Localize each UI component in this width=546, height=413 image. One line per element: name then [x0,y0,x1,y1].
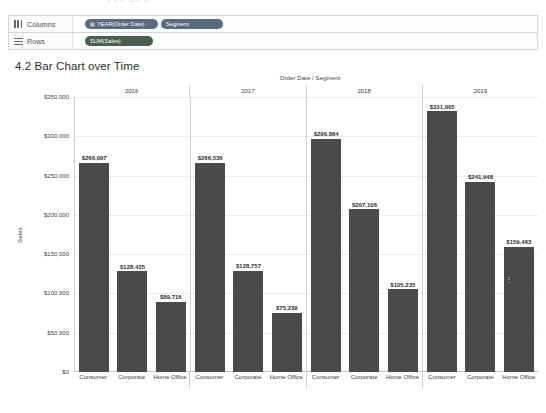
bar-groups: $266,097$128,435$89,716$266,536$128,757$… [75,97,538,372]
x-label-corporate: Corporate [229,372,267,388]
shelf-panel: Columns ▦ YEAR(Order Date) Segment Rows … [8,15,538,50]
x-label-consumer: Consumer [307,372,345,388]
pill-year-order-date[interactable]: ▦ YEAR(Order Date) [85,19,158,29]
columns-icon [14,20,23,28]
bar-value-label: $159,463 [506,239,531,245]
bar-slot: $207,106 [345,97,383,372]
bar-slot: $296,864 [307,97,345,372]
plot-wrapper: Sales $350,000$300,000$250,000$200,000$1… [8,97,538,372]
y-axis-ticks: $350,000$300,000$250,000$200,000$150,000… [22,97,72,372]
bar-value-label: $266,097 [82,155,107,161]
calendar-icon: ▦ [90,21,95,27]
bar-2016-corporate[interactable]: $128,435 [117,271,147,372]
page-title: 4.2 Bar Chart over Time [15,60,139,72]
top-artifact-strip: ppy gg g [0,0,546,14]
bar-slot: $266,097 [75,97,113,372]
bar-value-label: $128,435 [120,264,145,270]
pill-segment[interactable]: Segment [161,19,223,29]
scan-artifact: ⋮ [505,275,519,305]
x-label-corporate: Corporate [345,372,383,388]
bar-value-label: $266,536 [198,155,223,161]
chart-container: Order Date / Segment 2016201720182019 Sa… [8,75,538,395]
year-header-2018: 2018 [306,85,422,97]
columns-shelf-label: Columns [9,16,73,32]
x-label-consumer: Consumer [190,372,228,388]
rows-shelf-dropzone[interactable]: SUM(Sales) [73,33,537,49]
x-group-2016: ConsumerCorporateHome Office [74,372,189,388]
rows-icon [14,37,23,45]
bar-2017-consumer[interactable]: $266,536 [195,163,225,372]
bar-2016-consumer[interactable]: $266,097 [79,163,109,372]
x-label-home-office: Home Office [151,372,189,388]
x-group-2018: ConsumerCorporateHome Office [306,372,422,388]
columns-label-text: Columns [27,21,55,28]
pill-year-order-date-text: YEAR(Order Date) [97,21,144,27]
bar-slot: $159,463 [500,97,538,372]
bar-2019-corporate[interactable]: $241,948 [465,182,495,372]
x-axis-labels: ConsumerCorporateHome OfficeConsumerCorp… [74,372,538,388]
bar-group-2016: $266,097$128,435$89,716 [75,97,190,372]
bar-slot: $128,757 [229,97,267,372]
bar-group-2018: $296,864$207,106$105,235 [306,97,422,372]
y-tick-label: $350,000 [44,94,69,100]
y-tick-label: $0 [62,369,69,375]
x-label-home-office: Home Office [267,372,305,388]
bar-2019-consumer[interactable]: $331,905 [427,111,457,372]
pill-sum-sales[interactable]: SUM(Sales) [85,36,153,46]
bar-value-label: $241,948 [468,174,493,180]
y-tick-label: $150,000 [44,251,69,257]
bar-slot: $89,716 [152,97,190,372]
pill-sum-sales-text: SUM(Sales) [90,38,121,44]
x-group-2017: ConsumerCorporateHome Office [189,372,305,388]
y-tick-label: $250,000 [44,173,69,179]
bar-value-label: $105,235 [390,282,415,288]
bar-2018-corporate[interactable]: $207,106 [349,209,379,372]
bar-value-label: $75,239 [276,305,298,311]
x-label-corporate: Corporate [112,372,150,388]
rows-shelf-label: Rows [9,33,73,49]
bar-2018-consumer[interactable]: $296,864 [311,139,341,372]
bar-value-label: $296,864 [314,131,339,137]
bar-group-2019: $331,905$241,948$159,463 [422,97,538,372]
bar-slot: $75,239 [268,97,306,372]
rows-shelf[interactable]: Rows SUM(Sales) [9,33,537,50]
bar-group-2017: $266,536$128,757$75,239 [190,97,306,372]
columns-shelf[interactable]: Columns ▦ YEAR(Order Date) Segment [9,16,537,33]
x-label-consumer: Consumer [74,372,112,388]
bar-slot: $331,905 [423,97,461,372]
x-label-consumer: Consumer [423,372,461,388]
pill-segment-text: Segment [166,21,189,27]
y-tick-label: $50,000 [47,330,69,336]
y-tick-label: $100,000 [44,290,69,296]
y-tick-label: $300,000 [44,133,69,139]
columns-shelf-dropzone[interactable]: ▦ YEAR(Order Date) Segment [73,16,537,32]
bar-slot: $266,536 [191,97,229,372]
bar-2018-home-office[interactable]: $105,235 [388,289,418,372]
x-label-home-office: Home Office [500,372,538,388]
x-group-2019: ConsumerCorporateHome Office [422,372,538,388]
column-header-title: Order Date / Segment [82,75,538,81]
plot-area: $266,097$128,435$89,716$266,536$128,757$… [74,97,538,372]
year-header-2017: 2017 [189,85,305,97]
year-header-2019: 2019 [422,85,538,97]
ghost-text: ppy gg g [108,0,150,2]
bar-slot: $128,435 [113,97,151,372]
rows-label-text: Rows [27,38,45,45]
bar-value-label: $331,905 [430,104,455,110]
bar-2016-home-office[interactable]: $89,716 [156,302,186,372]
y-tick-label: $200,000 [44,212,69,218]
x-label-corporate: Corporate [461,372,499,388]
bar-slot: $105,235 [384,97,422,372]
bar-value-label: $128,757 [236,263,261,269]
bar-value-label: $207,106 [352,202,377,208]
bar-value-label: $89,716 [160,294,182,300]
bar-slot: $241,948 [461,97,499,372]
bar-2017-home-office[interactable]: $75,239 [272,313,302,372]
bar-2019-home-office[interactable]: $159,463 [504,247,534,372]
x-label-home-office: Home Office [383,372,421,388]
bar-2017-corporate[interactable]: $128,757 [233,271,263,372]
year-header-2016: 2016 [74,85,189,97]
